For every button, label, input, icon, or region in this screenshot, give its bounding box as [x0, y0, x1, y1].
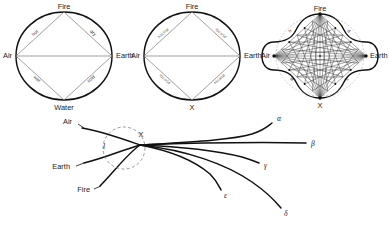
diagram2-vertex-fire: Fire — [186, 2, 199, 11]
fan-label-alpha: α — [277, 114, 282, 123]
diagram2-edge-upper-right: h1c,w1d — [214, 27, 226, 39]
diagram3-vertex-earth: Earth — [370, 51, 388, 60]
diagram3-edge-label-d: d — [346, 28, 352, 34]
diagram2-vertex-earth: Earth — [244, 51, 262, 60]
fan-label-fire: Fire — [77, 185, 90, 194]
fan-label-x: X — [139, 130, 144, 139]
diagram-complete-graph: Fire Air Earth X h d w c — [261, 4, 388, 110]
diagram2-vertex-air: Air — [131, 51, 141, 60]
diagram1-edge-cold: cold — [86, 74, 96, 84]
fan-label-epsilon: ε — [224, 191, 227, 200]
fan-leader-fire — [94, 186, 101, 189]
diagram3-edge-label-h: h — [287, 28, 293, 34]
fan-label-earth: Earth — [52, 162, 70, 171]
diagram1-vertex-air: Air — [3, 51, 13, 60]
diagram3-vertex-fire: Fire — [314, 4, 327, 13]
fan-label-l: l — [103, 142, 105, 151]
fan-label-delta: δ — [284, 209, 288, 218]
diagram2-vertex-x: X — [190, 103, 195, 112]
fan-leader-air — [78, 124, 84, 128]
diagram2-edge-upper-left: h1c,h1d — [157, 28, 169, 39]
fan-leader-earth — [76, 163, 84, 166]
fan-label-gamma: γ — [264, 161, 268, 170]
fan-output-curve-delta — [140, 145, 281, 208]
figure-canvas: Fire Air Earth Water hot dry wet cold Fi… — [0, 0, 389, 226]
diagram1-vertex-water: Water — [54, 103, 74, 112]
fan-label-beta: β — [310, 139, 315, 148]
diagram-classical-square: Fire Air Earth Water hot dry wet cold — [3, 2, 134, 112]
fan-output-curve-alpha — [140, 123, 272, 145]
diagram1-edge-wet: wet — [33, 75, 42, 84]
diagram3-vertex-air: Air — [261, 51, 271, 60]
fan-input-curve-air — [82, 128, 140, 145]
fan-input-curve-earth — [84, 145, 140, 163]
diagram3-vertex-x: X — [318, 101, 323, 110]
diagram1-vertex-fire: Fire — [58, 2, 71, 11]
diagram-square-with-x: Fire Air Earth X h1c,h1d h1c,w1d h1c,w1d… — [131, 2, 262, 112]
fan-label-air: Air — [63, 117, 73, 126]
diagram-convergence-fan: Air Earth Fire X l α β γ ε δ — [52, 114, 315, 218]
